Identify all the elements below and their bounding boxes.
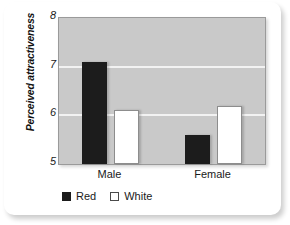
y-axis-tick-labels: 8 7 6 5: [40, 2, 56, 215]
y-axis-title: Perceived attractiveness: [24, 5, 36, 140]
legend-label-white: White: [124, 190, 152, 202]
bar-female-white: [217, 106, 242, 164]
y-tick-6: 6: [42, 106, 56, 118]
chart-legend: Red White: [58, 190, 270, 202]
y-tick-7: 7: [42, 58, 56, 70]
outlined-square-icon: [110, 192, 119, 201]
legend-item-red: Red: [62, 190, 96, 202]
legend-label-red: Red: [76, 190, 96, 202]
legend-item-white: White: [110, 190, 152, 202]
x-tick-male: Male: [98, 168, 122, 180]
filled-square-icon: [62, 192, 71, 201]
bar-male-white: [114, 110, 139, 164]
y-tick-5: 5: [42, 155, 56, 167]
x-tick-female: Female: [194, 168, 231, 180]
bar-male-red: [82, 62, 107, 164]
x-axis-tick-labels: Male Female: [58, 168, 266, 186]
bar-female-red: [185, 135, 210, 164]
plot-area: [58, 17, 266, 165]
chart-card: Perceived attractiveness 8 7 6 5 Male Fe…: [4, 2, 281, 215]
y-tick-8: 8: [42, 9, 56, 21]
